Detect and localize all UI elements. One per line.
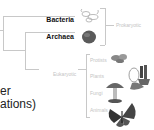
archaea-eukaryote-vertical [25,32,26,69]
plants-label: Plants [90,73,104,79]
prokaryotic-bracket-bottom [100,45,105,46]
eukaryotic-bracket-tick [78,69,86,70]
archaea-label: Archaea [34,33,74,40]
eukaryote-branch [25,69,39,70]
eukaryotic-label: Eukaryotic [53,71,76,77]
root-branch-vertical [3,16,4,50]
fungi-label: Fungi [90,90,103,96]
prokaryotic-bracket-tick [106,25,114,26]
cut-off-text-line-1: er [0,84,11,98]
butterfly-icon [106,103,138,129]
eukaryotic-bracket-vertical [86,54,87,117]
lower-branch [3,50,25,51]
bacteria-icon [79,8,101,24]
cut-off-text-line-2: ations) [0,97,36,111]
protists-label: Protists [90,57,107,63]
prokaryotic-label: Prokaryotic [116,22,141,28]
prokaryotic-bracket-vertical [105,8,106,45]
bacteria-label: Bacteria [34,16,74,23]
archaea-icon [81,29,97,45]
eukaryotic-bracket-bottom [86,117,90,118]
plant-icon [126,63,152,93]
